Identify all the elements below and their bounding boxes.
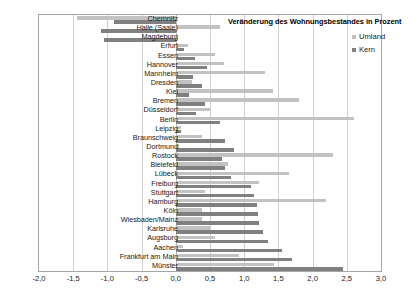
legend-swatch-icon (352, 35, 356, 39)
category-label: Dresden (151, 78, 178, 88)
category-label: Erfurt (160, 41, 178, 51)
category-label: Rostock (152, 151, 178, 161)
category-label: Halle (Saale) (136, 23, 178, 33)
category-label: Leipzig (155, 124, 178, 134)
category-label: Hannover (147, 60, 178, 70)
x-axis-tick-labels: -2,0-1,5-1,0-0,50,00,51,01,52,02,53,0 (0, 274, 415, 290)
x-tick-label: 3,0 (361, 274, 401, 283)
chart-title: Veränderung des Wohnungsbestandes in Pro… (228, 17, 402, 26)
category-label: Aachen (154, 243, 178, 253)
category-label: Köln (164, 206, 178, 216)
chart-legend: UmlandKern (352, 31, 385, 57)
category-label: Stuttgart (151, 188, 178, 198)
category-label: Berlin (160, 115, 178, 125)
legend-item: Kern (352, 44, 385, 55)
category-label: Braunschweig (133, 133, 178, 143)
category-label: Frankfurt am Main (120, 252, 178, 262)
category-label: Mannheim (144, 69, 178, 79)
bar-chart: ChemnitzHalle (Saale)MagdeburgErfurtEsse… (0, 0, 415, 303)
category-label: Freiburg (151, 179, 178, 189)
legend-swatch-icon (352, 48, 356, 52)
category-label: Düsseldorf (144, 105, 178, 115)
category-label: Magdeburg (142, 32, 178, 42)
category-label: Wiesbaden/Mainz (121, 215, 178, 225)
category-label: Kiel (166, 87, 178, 97)
category-label: Hamburg (148, 197, 178, 207)
legend-label: Kern (359, 45, 375, 54)
category-label: Karlsruhe (147, 224, 178, 234)
category-label: Chemnitz (148, 14, 178, 24)
category-label: Essen (158, 51, 178, 61)
category-label: Lübeck (155, 169, 178, 179)
category-label: Dortmund (146, 142, 178, 152)
category-label: Münster (152, 261, 178, 271)
legend-label: Umland (359, 32, 385, 41)
category-label: Bremen (153, 96, 178, 106)
legend-item: Umland (352, 31, 385, 42)
category-label: Bielefeld (150, 160, 178, 170)
category-label: Augsburg (147, 233, 178, 243)
